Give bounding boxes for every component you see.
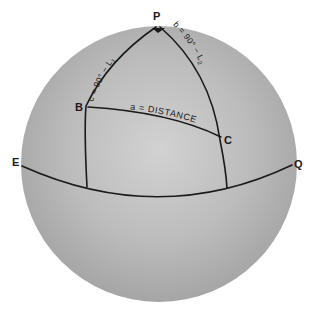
spherical-triangle-diagram: P B C E Q c = 90° − L1 b = 90° − L2 a = … (0, 0, 315, 315)
label-vertex-c: C (224, 134, 232, 146)
label-pole-p: P (153, 10, 160, 22)
label-vertex-b: B (75, 101, 83, 113)
label-equator-e: E (12, 156, 19, 168)
sphere (21, 26, 297, 302)
label-equator-q: Q (294, 158, 303, 170)
